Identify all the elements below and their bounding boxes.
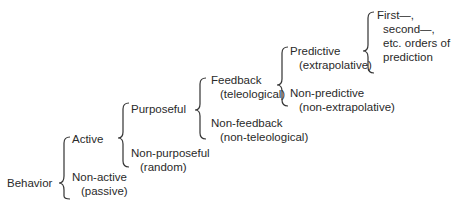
brace-purposeful [195, 78, 206, 139]
node-non-active: Non-active (passive) [72, 170, 128, 198]
node-orders-of-prediction: First—, second—, etc. orders of predicti… [377, 8, 450, 64]
brace-active [118, 103, 129, 167]
node-predictive: Predictive (extrapolative) [290, 44, 372, 72]
node-non-purposeful: Non-purposeful (random) [131, 146, 210, 174]
brace-behavior [59, 137, 70, 199]
node-non-feedback: Non-feedback (non-teleological) [211, 116, 308, 144]
node-active: Active [72, 132, 103, 146]
node-behavior: Behavior [7, 176, 52, 190]
node-non-predictive: Non-predictive (non-extrapolative) [290, 86, 395, 114]
node-feedback: Feedback (teleological) [211, 73, 285, 101]
node-purposeful: Purposeful [131, 102, 186, 116]
